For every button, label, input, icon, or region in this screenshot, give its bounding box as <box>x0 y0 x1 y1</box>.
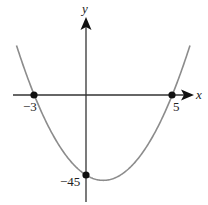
x-axis-label: x <box>195 87 202 102</box>
parabola-curve <box>16 45 190 180</box>
y-intercept-point <box>82 171 89 178</box>
root-point-5 <box>168 91 175 98</box>
root-label-5: 5 <box>173 99 180 114</box>
root-point-neg3 <box>30 91 37 98</box>
y-intercept-label: −45 <box>60 174 80 189</box>
y-axis-label: y <box>80 1 88 16</box>
root-label-neg3: −3 <box>23 99 37 114</box>
parabola-graph: x y −3 5 −45 <box>0 0 208 205</box>
